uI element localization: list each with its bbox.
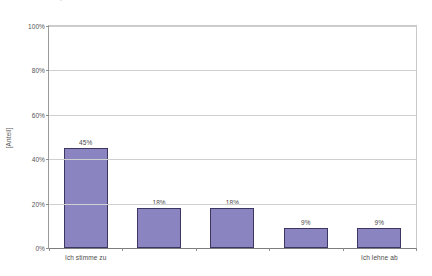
bar[interactable]: 18% <box>137 208 181 248</box>
y-axis-tick-label: 80% <box>32 67 45 74</box>
y-axis-tick-label: 100% <box>28 23 45 30</box>
gridline <box>49 115 416 116</box>
bar-slot: 45% <box>49 26 122 248</box>
gridline <box>49 70 416 71</box>
bar-data-label: 45% <box>79 139 92 146</box>
chart-title-text: Repräsentativ oder nicht <box>50 0 230 2</box>
y-axis-tick-mark <box>46 26 49 27</box>
y-axis-tick-mark <box>46 70 49 71</box>
y-axis-tick-mark <box>46 159 49 160</box>
bar-slot: 9% <box>343 26 416 248</box>
bar-series: 45%18%18%9%9% <box>49 26 416 248</box>
bar-slot: 18% <box>196 26 269 248</box>
bar-slot: 18% <box>122 26 195 248</box>
y-axis-tick-mark <box>46 204 49 205</box>
x-axis-tick-mark <box>343 248 344 251</box>
plot-area: 45%18%18%9%9% 0%20%40%60%80%100%Ich stim… <box>48 25 417 249</box>
bar-slot: 9% <box>269 26 342 248</box>
x-axis-tick-mark <box>416 248 417 251</box>
x-axis-tick-mark <box>122 248 123 251</box>
gridline <box>49 204 416 205</box>
bar-data-label: 18% <box>226 199 239 206</box>
bar[interactable]: 9% <box>284 228 328 248</box>
y-axis-tick-label: 20% <box>32 200 45 207</box>
y-axis-tick-mark <box>46 115 49 116</box>
bar-data-label: 9% <box>374 219 384 226</box>
y-axis-title: [Anteil] <box>5 128 12 149</box>
x-axis-tick-mark <box>49 248 50 251</box>
gridline <box>49 159 416 160</box>
bar-chart: Repräsentativ oder nicht [Anteil] 45%18%… <box>0 0 432 276</box>
y-axis-tick-label: 60% <box>32 111 45 118</box>
bar-data-label: 9% <box>301 219 311 226</box>
y-axis-tick-label: 0% <box>35 245 45 252</box>
bar[interactable]: 45% <box>64 148 108 248</box>
bar[interactable]: 9% <box>357 228 401 248</box>
x-axis-tick-mark <box>196 248 197 251</box>
x-axis-category-label: Ich lehne ab <box>361 254 398 261</box>
bar[interactable]: 18% <box>210 208 254 248</box>
x-axis-tick-mark <box>269 248 270 251</box>
y-axis-tick-label: 40% <box>32 156 45 163</box>
bar-data-label: 18% <box>152 199 165 206</box>
x-axis-category-label: Ich stimme zu <box>65 254 106 261</box>
chart-title-clipped: Repräsentativ oder nicht <box>50 0 230 2</box>
gridline <box>49 26 416 27</box>
